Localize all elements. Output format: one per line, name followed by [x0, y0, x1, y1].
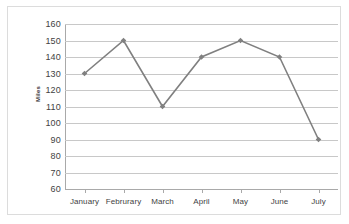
y-axis-tick-labels: 60708090100110120130140150160: [13, 24, 61, 189]
y-axis-tick-label: 90: [17, 136, 61, 145]
series-miles: [65, 24, 338, 189]
chart-frame: Miles 60708090100110120130140150160 Janu…: [7, 6, 341, 215]
x-axis-tick: [85, 189, 86, 193]
y-axis-tick-label: 120: [17, 86, 61, 95]
data-point-marker: [238, 38, 244, 44]
series-markers: [82, 38, 322, 143]
y-axis-tick-label: 100: [17, 119, 61, 128]
x-axis-tick: [124, 189, 125, 193]
x-axis-ticks: [65, 189, 338, 194]
x-axis-tick: [163, 189, 164, 193]
x-axis-tick-label: May: [233, 197, 248, 206]
y-axis-tick-label: 130: [17, 70, 61, 79]
y-axis-tick-label: 60: [17, 185, 61, 194]
x-axis-tick-labels: JanuaryFebruraryMarchAprilMayJuneJuly: [65, 197, 338, 211]
y-axis-tick-label: 110: [17, 103, 61, 112]
data-point-marker: [316, 137, 322, 143]
x-axis-tick-label: Februrary: [106, 197, 142, 206]
x-axis-tick: [202, 189, 203, 193]
y-axis-tick-label: 140: [17, 53, 61, 62]
x-axis-tick: [280, 189, 281, 193]
y-axis-tick-label: 70: [17, 169, 61, 178]
y-axis-tick-label: 80: [17, 152, 61, 161]
line-chart: Miles 60708090100110120130140150160 Janu…: [0, 0, 349, 224]
x-axis-tick-label: June: [271, 197, 289, 206]
x-axis-tick-label: January: [70, 197, 99, 206]
x-axis-tick-label: April: [193, 197, 210, 206]
data-point-marker: [277, 54, 283, 60]
x-axis-tick-label: July: [311, 197, 326, 206]
x-axis-tick: [241, 189, 242, 193]
x-axis-tick-label: March: [151, 197, 174, 206]
y-axis-tick-label: 160: [17, 20, 61, 29]
plot-area: [65, 24, 338, 189]
y-axis-tick-label: 150: [17, 37, 61, 46]
x-axis-tick: [319, 189, 320, 193]
